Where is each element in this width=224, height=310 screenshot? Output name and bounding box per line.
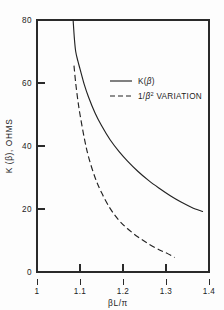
y-axis-ticks [37,20,45,272]
chart-svg: 80 60 40 20 0 1 1.1 1.2 1.3 1.4 K (β), O… [0,0,224,310]
y-tick-label-80: 80 [22,16,32,25]
x-tick-label-1-2: 1.2 [117,287,130,296]
x-tick-label-1-1: 1.1 [74,287,87,296]
x-axis-ticks [37,264,209,272]
x-axis-outer-ticks [37,279,209,285]
legend: K(β) 1/β2 VARIATION [110,77,202,101]
y-tick-labels: 80 60 40 20 0 [22,16,32,277]
data-curves [73,20,202,258]
x-tick-label-1: 1 [35,287,40,296]
x-axis-title-group: βL/π [108,298,128,308]
y-axis-title-group: K (β), OHMS [4,119,14,174]
y-tick-label-20: 20 [22,205,32,214]
plot-frame [37,20,209,272]
y-tick-label-60: 60 [22,79,32,88]
x-tick-label-1-4: 1.4 [203,287,216,296]
x-axis-title: βL/π [108,298,128,308]
legend-label-k-beta: K(β) [138,77,155,86]
y-tick-label-0: 0 [27,268,32,277]
curve-k-beta [73,20,202,212]
chart-figure: 80 60 40 20 0 1 1.1 1.2 1.3 1.4 K (β), O… [0,0,224,310]
y-tick-label-40: 40 [22,142,32,151]
x-tick-labels: 1 1.1 1.2 1.3 1.4 [35,287,216,296]
y-axis-title: K (β), OHMS [4,119,14,174]
legend-label-beta-squared: 1/β2 VARIATION [138,91,202,101]
x-tick-label-1-3: 1.3 [160,287,173,296]
